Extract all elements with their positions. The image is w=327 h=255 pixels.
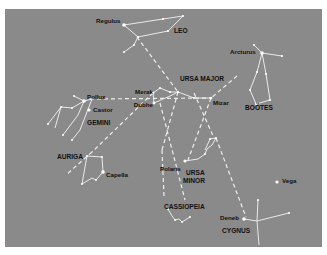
star-chart: Regulus Arcturus Pollux Castor Merak Dub… xyxy=(0,0,327,255)
star-dubhe xyxy=(153,102,156,105)
label-merak: Merak xyxy=(135,88,153,95)
label-arcturus: Arcturus xyxy=(230,48,256,55)
label-leo: LEO xyxy=(174,27,188,34)
label-ursa-major: URSA MAJOR xyxy=(180,75,224,82)
star-pollux xyxy=(82,99,86,103)
star-vega xyxy=(275,180,278,183)
label-polaris: Polaris xyxy=(160,165,181,172)
star-regulus xyxy=(122,23,126,27)
label-regulus: Regulus xyxy=(96,17,121,24)
sky-background xyxy=(5,9,322,247)
label-cassiopeia: CASSIOPEIA xyxy=(164,203,205,210)
label-cygnus: CYGNUS xyxy=(222,227,251,234)
label-vega: Vega xyxy=(282,177,297,184)
label-deneb: Deneb xyxy=(220,214,239,221)
star-capella xyxy=(101,170,105,174)
star-arcturus xyxy=(260,51,264,55)
label-pollux: Pollux xyxy=(87,93,106,100)
label-gemini: GEMINI xyxy=(87,119,111,126)
label-mizar: Mizar xyxy=(213,99,229,106)
label-auriga: AURIGA xyxy=(57,153,83,160)
label-ursa-minor-2: MINOR xyxy=(183,177,205,184)
label-capella: Capella xyxy=(106,171,129,178)
star-deneb xyxy=(242,217,246,221)
star-polaris xyxy=(183,159,186,162)
label-dubhe: Dubhe xyxy=(134,101,154,108)
label-ursa-minor-1: URSA xyxy=(186,169,205,176)
star-castor xyxy=(87,108,90,111)
label-castor: Castor xyxy=(93,106,113,113)
label-bootes: BOÖTES xyxy=(245,103,273,111)
star-mizar xyxy=(210,97,213,100)
